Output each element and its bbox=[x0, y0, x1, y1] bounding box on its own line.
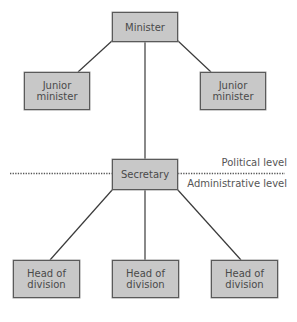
head-of-division-middle-label: Head of division bbox=[126, 268, 165, 290]
secretary-box: Secretary bbox=[112, 159, 178, 190]
administrative-level-label: Administrative level bbox=[187, 178, 287, 189]
minister-label: Minister bbox=[125, 22, 165, 33]
edge-secretary-head-left bbox=[50, 189, 113, 260]
edge-secretary-head-right bbox=[177, 189, 241, 260]
junior-minister-right-box: Junior minister bbox=[200, 72, 266, 110]
junior-minister-left-label: Junior minister bbox=[36, 80, 77, 102]
edge-minister-junior-left bbox=[78, 40, 113, 72]
head-of-division-left-label: Head of division bbox=[27, 268, 66, 290]
political-level-label: Political level bbox=[222, 157, 287, 168]
junior-minister-left-box: Junior minister bbox=[24, 72, 90, 110]
junior-minister-right-label: Junior minister bbox=[212, 80, 253, 102]
head-of-division-right-label: Head of division bbox=[225, 268, 264, 290]
secretary-label: Secretary bbox=[121, 169, 169, 180]
head-of-division-middle-box: Head of division bbox=[112, 260, 179, 298]
head-of-division-right-box: Head of division bbox=[211, 260, 278, 298]
edge-minister-junior-right bbox=[177, 40, 211, 72]
minister-box: Minister bbox=[112, 12, 178, 42]
head-of-division-left-box: Head of division bbox=[13, 260, 80, 298]
